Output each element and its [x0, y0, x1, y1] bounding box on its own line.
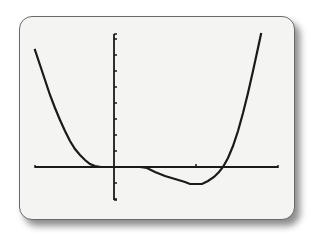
calculator-graph-figure	[0, 0, 321, 242]
function-plot	[0, 0, 321, 242]
function-curve	[35, 34, 261, 184]
